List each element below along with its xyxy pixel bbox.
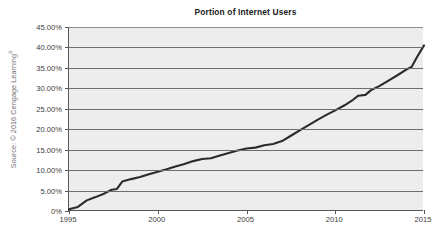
x-axis-tick-label: 1995 [48, 215, 88, 224]
chart-figure: Source: © 2016 Cengage Learning® Portion… [0, 0, 447, 242]
x-axis-tick-label: 2015 [403, 215, 443, 224]
x-axis-tick-label: 2005 [226, 215, 266, 224]
x-axis: 19952000200520102015 [0, 0, 447, 242]
x-axis-tick-label: 2000 [137, 215, 177, 224]
x-axis-tick-label: 2010 [314, 215, 354, 224]
